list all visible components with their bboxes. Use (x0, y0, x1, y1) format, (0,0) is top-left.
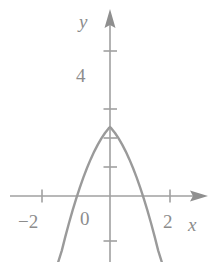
y-tick-label-4: 4 (76, 66, 86, 85)
origin-label: 0 (80, 209, 90, 228)
x-tick-label-pos2: 2 (163, 212, 173, 231)
y-axis-label: y (79, 12, 87, 31)
graph-figure: y x 4 0 −2 2 (0, 0, 216, 262)
x-axis-label: x (188, 215, 196, 234)
x-tick-label-neg2: −2 (18, 212, 38, 231)
